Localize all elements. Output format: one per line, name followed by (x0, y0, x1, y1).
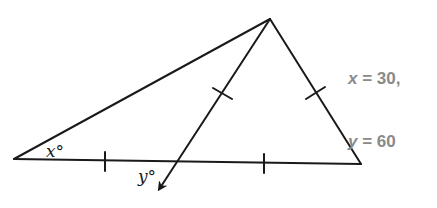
answer-x-line: x = 30, (348, 68, 400, 89)
side-left-apex (14, 19, 270, 159)
angle-label-y: y° (137, 166, 156, 186)
answer-y-value: = 60 (357, 132, 395, 151)
tick-mark-ray (213, 88, 232, 99)
answer-y-line: y = 60 (348, 131, 400, 152)
tick-mark-right-side (306, 87, 325, 99)
base-line (14, 159, 361, 164)
answer-text: x = 30, y = 60 (348, 26, 400, 173)
angle-label-x: x° (46, 141, 64, 161)
answer-x-value: = 30, (357, 69, 400, 88)
